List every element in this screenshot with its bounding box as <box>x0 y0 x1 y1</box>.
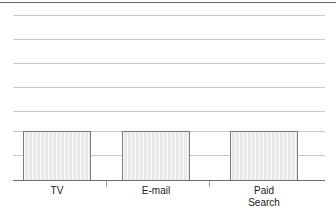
x-axis-line <box>13 180 325 181</box>
plot-area <box>13 0 325 182</box>
bar-paid-search[interactable] <box>230 131 298 181</box>
x-axis-label-tv: TV <box>17 185 97 197</box>
x-axis-label-email: E-mail <box>116 185 196 197</box>
gridline <box>13 39 325 40</box>
x-axis-tick <box>106 181 107 187</box>
gridline <box>13 15 325 16</box>
gridline <box>13 111 325 112</box>
x-axis-label-paid-search: Paid Search <box>224 185 304 209</box>
bar-email[interactable] <box>122 131 190 181</box>
x-axis-tick <box>209 181 210 187</box>
gridline <box>13 87 325 88</box>
bar-chart-figure: TV E-mail Paid Search <box>0 0 336 222</box>
gridline <box>13 63 325 64</box>
bar-tv[interactable] <box>23 131 91 181</box>
